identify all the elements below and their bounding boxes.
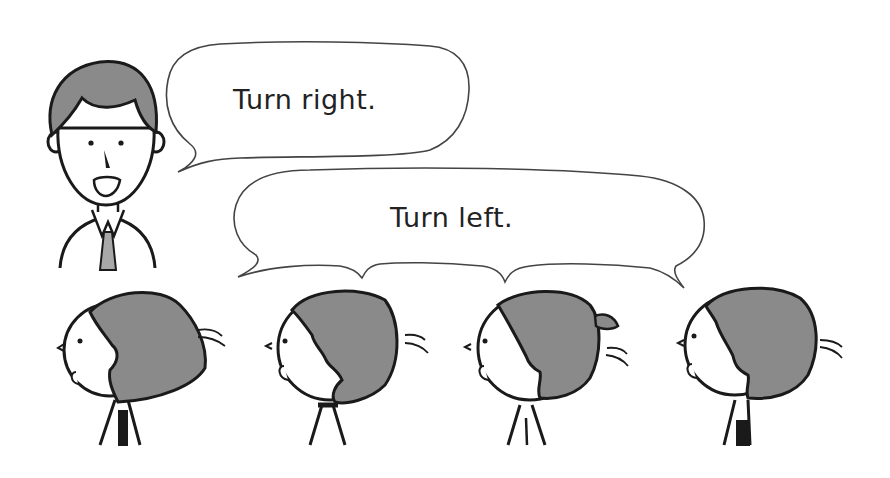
student-2-figure xyxy=(266,291,428,445)
student-3-figure xyxy=(465,291,628,445)
student-1-figure xyxy=(58,292,225,446)
teacher-figure xyxy=(48,62,164,270)
student-4-figure xyxy=(678,288,842,446)
scene-svg xyxy=(0,0,890,478)
speech-text-turn-right: Turn right. xyxy=(233,84,376,115)
speech-text-turn-left: Turn left. xyxy=(390,202,513,233)
illustration-stage: Turn right. Turn left. xyxy=(0,0,890,478)
